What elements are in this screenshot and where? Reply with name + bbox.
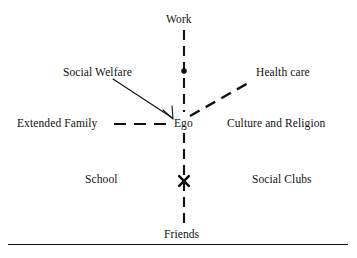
node-label-work: Work xyxy=(166,13,192,25)
node-label-social-clubs: Social Clubs xyxy=(252,173,312,185)
node-label-extended-family: Extended Family xyxy=(17,117,97,129)
node-label-school: School xyxy=(85,173,118,185)
node-label-ego: Ego xyxy=(174,117,193,129)
node-label-health-care: Health care xyxy=(256,66,310,78)
pointer-social-welfare-arrow-shaft xyxy=(113,79,171,117)
dot-marker-icon xyxy=(181,68,187,74)
ecomap-diagram-canvas xyxy=(0,0,357,258)
baseline-divider xyxy=(8,244,348,245)
node-label-friends: Friends xyxy=(164,228,199,240)
node-label-culture-and-religion: Culture and Religion xyxy=(227,117,325,129)
connector-health-care-to-ego xyxy=(190,82,250,116)
node-label-social-welfare: Social Welfare xyxy=(63,66,132,78)
